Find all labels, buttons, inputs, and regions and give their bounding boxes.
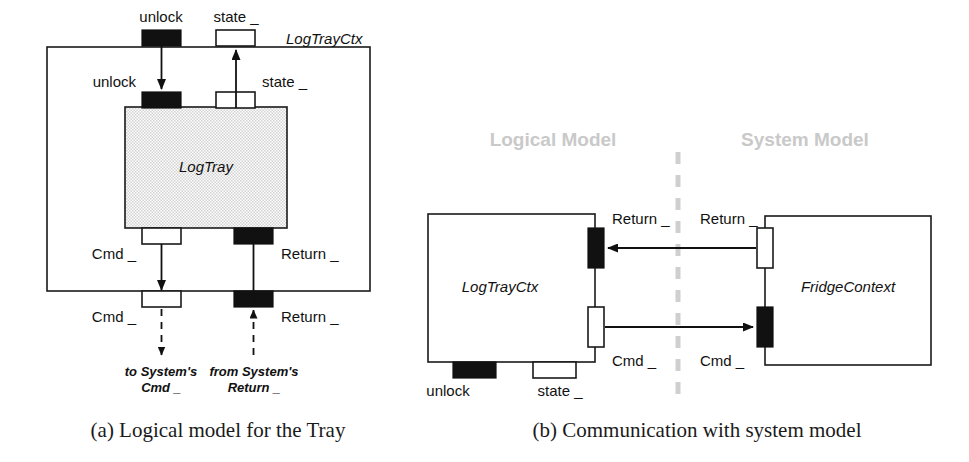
panel-a: LogTrayCtx LogTray unlock state _ unlock…	[47, 8, 370, 442]
port-state-outer-label: state _	[213, 8, 259, 25]
port-unlock-outer[interactable]	[142, 30, 181, 46]
panel-b: Logical Model System Model LogTrayCtx Fr…	[426, 129, 931, 442]
port-cmd-left-label: Cmd _	[612, 352, 657, 369]
logtrayctx-label: LogTrayCtx	[462, 278, 539, 295]
external-to-system-cmd-line1: to System's	[125, 364, 197, 379]
port-cmd-inner[interactable]	[142, 228, 181, 244]
port-return-left[interactable]	[588, 228, 604, 268]
port-state-bottom[interactable]	[533, 362, 576, 378]
port-cmd-left[interactable]	[588, 307, 604, 347]
port-return-inner-label: Return _	[281, 245, 339, 262]
port-unlock-bottom-label: unlock	[426, 382, 470, 399]
figure-root: LogTrayCtx LogTray unlock state _ unlock…	[0, 0, 969, 462]
region-system-model-label: System Model	[741, 129, 869, 150]
port-return-left-label: Return _	[612, 210, 670, 227]
logtrayctx-outer-label: LogTrayCtx	[286, 30, 363, 47]
caption-panel-b: (b) Communication with system model	[533, 418, 862, 442]
fridgecontext-label: FridgeContext	[801, 278, 896, 295]
port-return-right[interactable]	[757, 228, 773, 268]
port-unlock-inner-label: unlock	[93, 73, 137, 90]
port-state-bottom-label: state _	[537, 382, 583, 399]
port-cmd-outer-label: Cmd _	[92, 308, 137, 325]
port-state-outer[interactable]	[216, 30, 255, 46]
region-logical-model-label: Logical Model	[490, 129, 617, 150]
external-from-system-return-line1: from System's	[209, 364, 298, 379]
port-return-outer-label: Return _	[281, 308, 339, 325]
diagram-canvas: LogTrayCtx LogTray unlock state _ unlock…	[0, 0, 969, 462]
external-to-system-cmd-line2: Cmd _	[141, 380, 181, 395]
port-cmd-inner-label: Cmd _	[92, 245, 137, 262]
port-cmd-outer[interactable]	[142, 291, 181, 307]
port-unlock-bottom[interactable]	[453, 362, 496, 378]
port-state-inner-label: state _	[262, 73, 308, 90]
external-from-system-return-line2: Return _	[228, 380, 281, 395]
port-unlock-inner[interactable]	[142, 92, 181, 108]
port-unlock-outer-label: unlock	[139, 8, 183, 25]
port-return-right-label: Return _	[700, 210, 758, 227]
logtray-inner-label: LogTray	[179, 158, 234, 175]
port-cmd-right[interactable]	[757, 307, 773, 347]
caption-panel-a: (a) Logical model for the Tray	[91, 418, 346, 442]
port-cmd-right-label: Cmd _	[700, 352, 745, 369]
